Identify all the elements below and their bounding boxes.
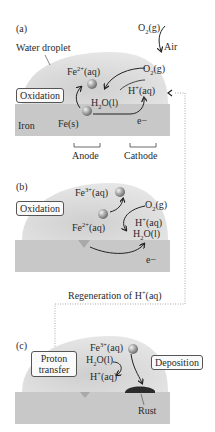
h2o-label-c: H2O(l) <box>86 355 113 368</box>
hplus-label-c: H+(aq) <box>90 371 117 382</box>
panel-a-label: (a) <box>16 24 27 34</box>
electron-label-a: e− <box>137 116 147 126</box>
air-label: Air <box>164 42 177 52</box>
fe2-label-b: Fe2+(aq) <box>72 222 105 233</box>
o2-dissolved-label: O2(g) <box>143 64 165 77</box>
cathode-label: Cathode <box>124 151 157 161</box>
fe-solid-label: Fe(s) <box>58 119 79 129</box>
oxidation-box-a: Oxidation <box>16 88 64 103</box>
water-droplet-label: Water droplet <box>16 43 70 53</box>
anode-label: Anode <box>72 151 99 161</box>
regeneration-label: Regeneration of H+(aq) <box>68 290 162 301</box>
hplus-label-b: H+(aq) <box>135 217 162 228</box>
fe3-label-c: Fe3+(aq) <box>90 342 123 353</box>
panel-c-label: (c) <box>16 341 27 351</box>
o2-label-b: O2(g) <box>145 200 167 213</box>
panel-b-label: (b) <box>16 182 28 192</box>
o2-air-label: O2(g) <box>138 23 160 36</box>
fe3-label-b: Fe3+(aq) <box>75 187 108 198</box>
fe2-label-a: Fe2+(aq) <box>67 66 100 77</box>
h2o-label-b: H2O(l) <box>133 229 160 242</box>
h2o-label-a: H2O(l) <box>91 98 118 111</box>
hplus-label-a: H+(aq) <box>128 85 155 96</box>
rust-label: Rust <box>138 406 156 416</box>
electron-label-b: e− <box>146 255 156 265</box>
oxidation-box-b: Oxidation <box>16 201 64 216</box>
deposition-box: Deposition <box>151 355 203 370</box>
proton-transfer-box: Proton transfer <box>31 351 77 377</box>
iron-label: Iron <box>18 121 35 131</box>
